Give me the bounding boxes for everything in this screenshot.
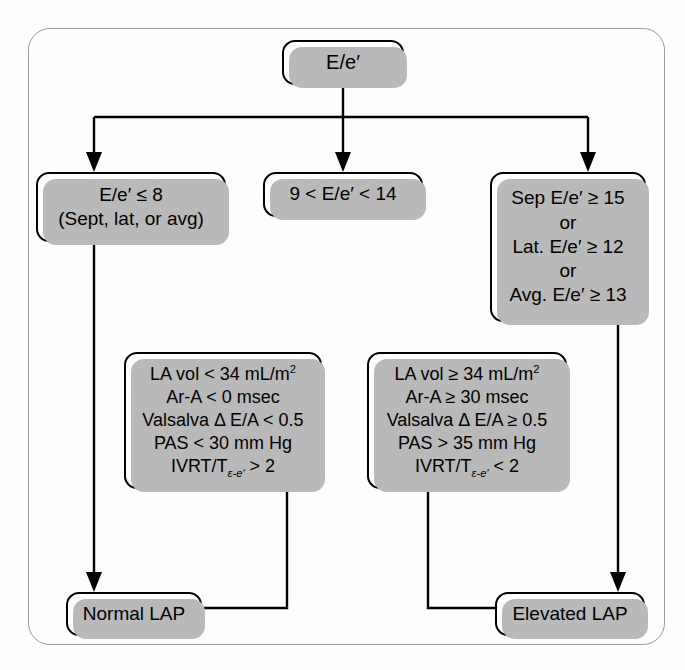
node-normal-lap[interactable]: Normal LAP [66, 592, 202, 636]
node-criteria-normal-line-5: IVRT/Tε-e′ > 2 [171, 455, 275, 478]
node-criteria-normal-line-3: Valsalva Δ E/A < 0.5 [142, 409, 303, 432]
node-criteria-normal[interactable]: LA vol < 34 mL/m2 Ar-A < 0 msec Valsalva… [124, 352, 322, 489]
node-criteria-normal-line-1: LA vol < 34 mL/m2 [150, 363, 296, 386]
node-criteria-elevated-line-4: PAS > 35 mm Hg [398, 432, 536, 455]
node-high-ratio-line-3: Lat. E/e′ ≥ 12 [512, 235, 623, 259]
node-criteria-elevated-line-1: LA vol ≥ 34 mL/m2 [394, 363, 539, 386]
node-root-line-1: E/e′ [326, 50, 360, 76]
node-high-ratio-line-1: Sep E/e′ ≥ 15 [511, 186, 624, 210]
node-low-ratio-line-2: (Sept, lat, or avg) [58, 207, 204, 231]
node-elevated-lap-line-1: Elevated LAP [512, 602, 627, 626]
node-mid-ratio-line-1: 9 < E/e′ < 14 [289, 182, 396, 206]
node-criteria-elevated-line-2: Ar-A ≥ 30 msec [406, 386, 529, 409]
node-root[interactable]: E/e′ [282, 40, 404, 85]
node-low-ratio-line-1: E/e′ ≤ 8 [99, 183, 163, 207]
diagram-canvas: E/e′ E/e′ ≤ 8 (Sept, lat, or avg) 9 < E/… [0, 0, 685, 670]
node-mid-ratio[interactable]: 9 < E/e′ < 14 [263, 172, 423, 217]
node-criteria-elevated-line-5-tail: < 2 [489, 456, 520, 476]
node-criteria-normal-line-2: Ar-A < 0 msec [166, 386, 280, 409]
node-high-ratio-line-2: or [560, 211, 577, 235]
superscript-square-normal: 2 [290, 363, 296, 375]
node-normal-lap-line-1: Normal LAP [83, 602, 185, 626]
node-criteria-normal-line-5-tail: > 2 [245, 456, 276, 476]
node-high-ratio[interactable]: Sep E/e′ ≥ 15 or Lat. E/e′ ≥ 12 or Avg. … [490, 172, 646, 322]
node-high-ratio-line-5: Avg. E/e′ ≥ 13 [509, 283, 626, 307]
node-criteria-elevated-line-5: IVRT/Tε-e′ < 2 [415, 455, 519, 478]
node-criteria-normal-line-4: PAS < 30 mm Hg [154, 432, 292, 455]
node-criteria-elevated[interactable]: LA vol ≥ 34 mL/m2 Ar-A ≥ 30 msec Valsalv… [367, 352, 567, 489]
node-criteria-elevated-line-3: Valsalva Δ E/A ≥ 0.5 [387, 409, 548, 432]
subscript-epsilon-normal: ε-e′ [228, 467, 245, 479]
subscript-epsilon-elevated: ε-e′ [472, 467, 489, 479]
superscript-square-elevated: 2 [533, 363, 539, 375]
diagram-frame [28, 28, 665, 645]
node-low-ratio[interactable]: E/e′ ≤ 8 (Sept, lat, or avg) [36, 172, 226, 242]
node-elevated-lap[interactable]: Elevated LAP [495, 592, 645, 636]
node-high-ratio-line-4: or [560, 259, 577, 283]
